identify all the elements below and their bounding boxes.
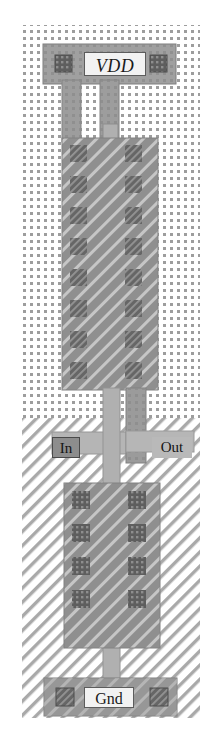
nmos-active <box>64 483 160 648</box>
vdd-rail-contact-left <box>55 55 72 72</box>
vdd-metal-drop <box>62 80 81 142</box>
vdd-label: VDD <box>84 52 146 76</box>
output-label: Out <box>152 437 192 458</box>
pmos-active <box>62 138 158 390</box>
input-label: In <box>52 437 80 458</box>
gnd-rail-contact-left <box>56 688 74 706</box>
layout-canvas <box>0 0 224 744</box>
gnd-rail-contact-right <box>150 688 168 706</box>
ic-layout-figure: VDD In Out Gnd <box>0 0 224 744</box>
vdd-rail-contact-right <box>150 55 167 72</box>
gnd-label: Gnd <box>84 687 134 708</box>
